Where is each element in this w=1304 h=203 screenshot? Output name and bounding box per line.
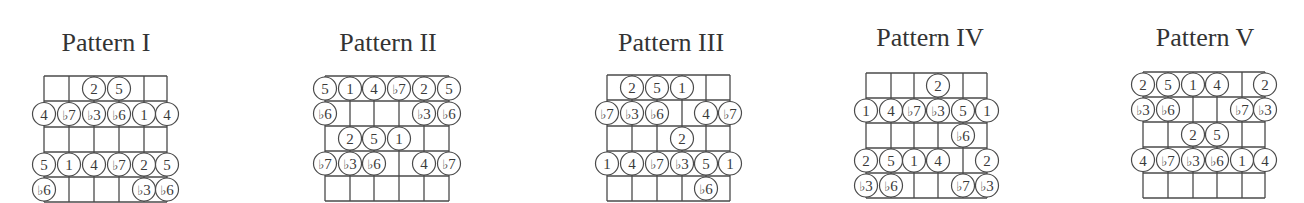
scale-note: ♭6 [1157,98,1180,121]
note-degree-label: 4 [1213,77,1221,93]
note-degree-label: 4 [1139,153,1147,169]
scale-note: ♭6 [1206,149,1229,172]
note-degree-label: 1 [1189,77,1197,93]
scale-note: ♭3 [1182,149,1205,172]
scale-note: ♭3 [1254,98,1277,121]
fretboard-grid: 25142♭3♭6♭7♭3254♭7♭3♭614 [0,0,1304,203]
scale-note: 2 [1182,123,1205,146]
scale-note: ♭7 [1157,149,1180,172]
scale-note: ♭7 [1231,98,1254,121]
note-degree-label: ♭3 [1258,102,1272,118]
note-degree-label: ♭3 [1186,153,1200,169]
scale-note: 2 [1132,73,1155,96]
note-degree-label: 5 [1164,77,1172,93]
scale-note: 5 [1206,123,1229,146]
scale-note: 2 [1254,73,1277,96]
scale-note: ♭3 [1132,98,1155,121]
note-degree-label: ♭6 [1210,153,1224,169]
scale-note: 4 [1206,73,1229,96]
scale-note: 1 [1231,149,1254,172]
note-degree-label: ♭7 [1235,102,1249,118]
note-degree-label: 5 [1213,127,1221,143]
note-degree-label: ♭3 [1136,102,1150,118]
scale-note: 4 [1132,149,1155,172]
note-degree-label: 2 [1139,77,1147,93]
note-degree-label: 4 [1261,153,1269,169]
scale-note: 1 [1182,73,1205,96]
scale-note: 5 [1157,73,1180,96]
note-degree-label: 2 [1189,127,1197,143]
note-degree-label: ♭7 [1161,153,1175,169]
note-degree-label: ♭6 [1161,102,1175,118]
note-degree-label: 2 [1261,77,1269,93]
scale-note: 4 [1254,149,1277,172]
note-degree-label: 1 [1238,153,1246,169]
